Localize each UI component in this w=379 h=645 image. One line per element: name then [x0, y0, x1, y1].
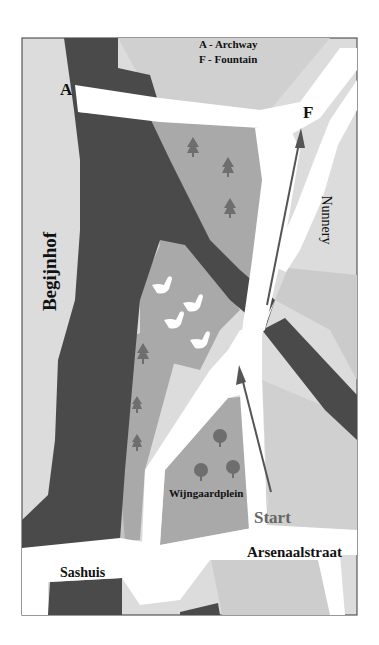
- place-wijngaardplein: Wijngaardplein: [169, 488, 243, 499]
- place-arsenaalstraat: Arsenaalstraat: [247, 545, 342, 560]
- marker-archway: A: [60, 81, 72, 98]
- marker-fountain: F: [303, 104, 313, 121]
- sashuis-building: [48, 578, 122, 615]
- place-begijnhof: Begijnhof: [40, 232, 59, 311]
- place-sashuis: Sashuis: [60, 566, 105, 580]
- place-nunnery: Nunnery: [319, 196, 333, 245]
- legend-archway: A - Archway: [199, 39, 257, 50]
- legend-fountain: F - Fountain: [199, 54, 257, 65]
- marker-start: Start: [254, 509, 291, 526]
